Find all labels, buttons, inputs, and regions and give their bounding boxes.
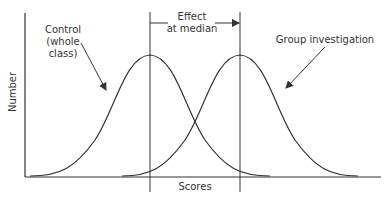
group-arrow: [286, 47, 325, 88]
effect-label: Effect at median: [165, 11, 219, 35]
control-label-line-1: Control: [38, 24, 88, 36]
control-label-line-2: (whole: [38, 36, 88, 48]
control-label-line-3: class): [38, 48, 88, 60]
effect-label-line-1: Effect: [165, 11, 219, 23]
y-axis-label: Number: [7, 67, 19, 117]
control-label: Control (whole class): [38, 24, 88, 60]
x-axis-label: Scores: [170, 181, 220, 193]
group-label: Group investigation: [270, 34, 380, 46]
effect-label-line-2: at median: [165, 23, 219, 35]
